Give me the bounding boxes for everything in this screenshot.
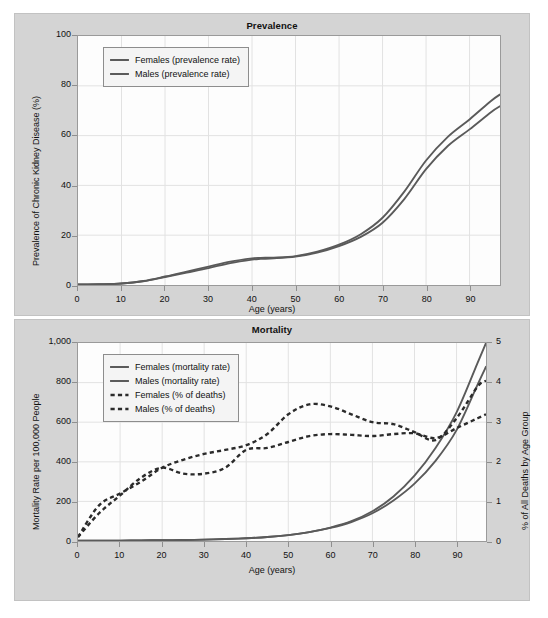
x-tick-label: 90 — [443, 550, 471, 560]
legend-label: Females (% of deaths) — [135, 391, 226, 400]
y-tick-label: 0 — [33, 536, 71, 546]
x-tick-mark — [457, 542, 458, 547]
y2-tick-label: 3 — [496, 416, 501, 426]
y-tick-mark — [72, 462, 77, 463]
series-line-0 — [78, 95, 500, 285]
y2-tick-label: 2 — [496, 456, 501, 466]
x-tick-mark — [119, 542, 120, 547]
x-tick-label: 80 — [401, 550, 429, 560]
x-tick-label: 80 — [413, 294, 441, 304]
y2-tick-label: 4 — [496, 376, 501, 386]
x-tick-mark — [383, 286, 384, 291]
figure-canvas: Prevalence 100806040200 0102030405060708… — [0, 0, 548, 618]
x-tick-label: 70 — [359, 550, 387, 560]
y-tick-label: 0 — [33, 280, 71, 290]
x-tick-mark — [288, 542, 289, 547]
mortality-y-axis-title: Mortality Rate per 100,000 People — [31, 393, 41, 530]
prevalence-chart-title: Prevalence — [15, 20, 529, 31]
mortality-panel: Mortality 1,0008006004002000 543210 0102… — [14, 319, 530, 601]
x-tick-label: 10 — [107, 294, 135, 304]
prevalence-y-axis-title: Prevalence of Chronic Kidney Disease (%) — [31, 96, 41, 266]
x-tick-mark — [331, 542, 332, 547]
x-tick-label: 0 — [63, 550, 91, 560]
x-tick-mark — [246, 542, 247, 547]
solid-line-icon — [110, 376, 129, 386]
x-tick-mark — [470, 286, 471, 291]
y2-tick-label: 0 — [496, 536, 501, 546]
x-tick-label: 20 — [150, 294, 178, 304]
y2-tick-mark — [487, 462, 492, 463]
prevalence-x-axis-title: Age (years) — [15, 304, 529, 314]
mortality-y2-axis-title: % of All Deaths by Age Group — [520, 411, 530, 530]
legend-label: Females (mortality rate) — [135, 363, 230, 372]
x-tick-mark — [208, 286, 209, 291]
x-tick-mark — [252, 286, 253, 291]
y-tick-mark — [72, 502, 77, 503]
y2-tick-mark — [487, 502, 492, 503]
x-tick-label: 10 — [105, 550, 133, 560]
prevalence-legend: Females (prevalence rate)Males (prevalen… — [103, 47, 249, 87]
legend-row: Males (% of deaths) — [110, 402, 230, 416]
mortality-legend: Females (mortality rate)Males (mortality… — [103, 354, 239, 422]
legend-label: Males (mortality rate) — [135, 377, 220, 386]
mortality-chart-title: Mortality — [15, 324, 529, 335]
y-tick-label: 800 — [33, 376, 71, 386]
y-tick-label: 1,000 — [33, 336, 71, 346]
y-tick-mark — [72, 85, 77, 86]
y-tick-mark — [72, 382, 77, 383]
x-tick-label: 40 — [238, 294, 266, 304]
y-tick-mark — [72, 342, 77, 343]
y-tick-mark — [72, 422, 77, 423]
y2-tick-mark — [487, 382, 492, 383]
x-tick-mark — [162, 542, 163, 547]
legend-row: Males (mortality rate) — [110, 374, 230, 388]
x-tick-label: 20 — [148, 550, 176, 560]
y-tick-mark — [72, 186, 77, 187]
x-tick-mark — [339, 286, 340, 291]
y-tick-mark — [72, 35, 77, 36]
legend-row: Males (prevalence rate) — [110, 67, 240, 81]
y-tick-mark — [72, 135, 77, 136]
solid-line-icon — [110, 69, 129, 79]
x-tick-mark — [373, 542, 374, 547]
prevalence-series-group — [78, 95, 500, 285]
y2-tick-label: 5 — [496, 336, 501, 346]
x-tick-mark — [77, 542, 78, 547]
mortality-x-axis-title: Age (years) — [15, 565, 529, 575]
legend-row: Females (% of deaths) — [110, 388, 230, 402]
x-tick-label: 90 — [456, 294, 484, 304]
legend-row: Females (prevalence rate) — [110, 53, 240, 67]
legend-label: Males (prevalence rate) — [135, 70, 230, 79]
x-tick-mark — [296, 286, 297, 291]
x-tick-label: 60 — [317, 550, 345, 560]
x-tick-label: 0 — [63, 294, 91, 304]
x-tick-mark — [204, 542, 205, 547]
legend-row: Females (mortality rate) — [110, 360, 230, 374]
x-tick-label: 70 — [369, 294, 397, 304]
x-tick-label: 60 — [325, 294, 353, 304]
solid-line-icon — [110, 55, 129, 65]
x-tick-label: 50 — [274, 550, 302, 560]
y2-tick-mark — [487, 542, 492, 543]
x-tick-mark — [427, 286, 428, 291]
dashed-line-icon — [110, 404, 129, 414]
series-line-3 — [78, 414, 486, 537]
x-tick-label: 40 — [232, 550, 260, 560]
y-tick-label: 100 — [33, 29, 71, 39]
x-tick-label: 30 — [194, 294, 222, 304]
y2-tick-mark — [487, 422, 492, 423]
x-tick-mark — [121, 286, 122, 291]
solid-line-icon — [110, 362, 129, 372]
x-tick-label: 30 — [190, 550, 218, 560]
y2-tick-mark — [487, 342, 492, 343]
dashed-line-icon — [110, 390, 129, 400]
x-tick-mark — [164, 286, 165, 291]
y-tick-mark — [72, 236, 77, 237]
x-tick-label: 50 — [282, 294, 310, 304]
x-tick-mark — [77, 286, 78, 291]
prevalence-panel: Prevalence 100806040200 0102030405060708… — [14, 13, 530, 316]
y-tick-label: 80 — [33, 79, 71, 89]
x-tick-mark — [415, 542, 416, 547]
series-line-1 — [78, 106, 500, 284]
y2-tick-label: 1 — [496, 496, 501, 506]
